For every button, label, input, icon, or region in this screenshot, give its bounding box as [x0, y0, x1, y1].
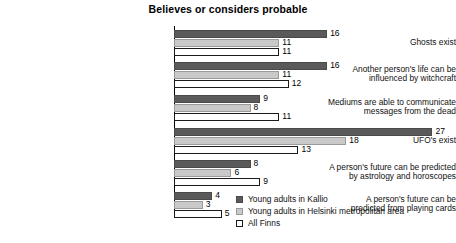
legend-label: Young adults in Kallio — [248, 195, 328, 204]
bar — [174, 71, 279, 79]
bar — [174, 80, 289, 88]
legend-item[interactable]: All Finns — [236, 218, 454, 229]
chart-legend: Young adults in KallioYoung adults in He… — [236, 194, 454, 230]
bar — [174, 39, 279, 47]
bar — [174, 201, 203, 209]
category-label-line: influenced by witchcraft — [284, 74, 456, 84]
bar — [174, 178, 260, 186]
category-label: Mediums are able to communicatemessages … — [284, 98, 456, 117]
legend-item[interactable]: Young adults in Kallio — [236, 194, 454, 205]
bar-value-label: 3 — [206, 199, 211, 210]
category-label-line: Ghosts exist — [284, 38, 456, 48]
bar — [174, 95, 260, 103]
legend-item[interactable]: Young adults in Helsinki metropolitan ar… — [236, 206, 454, 217]
legend-swatch-icon — [236, 220, 243, 227]
category-label: Another person's life can beinfluenced b… — [284, 65, 456, 84]
bar-value-label: 9 — [263, 176, 268, 187]
bar-value-label: 5 — [225, 208, 230, 219]
bar — [174, 169, 231, 177]
category-label: Ghosts exist — [284, 38, 456, 48]
chart-title: Believes or considers probable — [0, 3, 456, 15]
bar — [174, 210, 222, 218]
bar-value-label: 9 — [263, 93, 268, 104]
category-label-line: by astrology and horoscopes — [284, 172, 456, 182]
bar-value-label: 4 — [215, 190, 220, 201]
bar-row: 13 — [174, 146, 456, 154]
bar-value-label: 11 — [282, 46, 291, 57]
legend-swatch-icon — [236, 208, 243, 215]
bar — [174, 146, 298, 154]
legend-label: All Finns — [248, 219, 280, 228]
bar-value-label: 8 — [254, 158, 259, 169]
bar-row: 11 — [174, 48, 456, 56]
plot-area: 1611111611129811271813869435 — [174, 26, 456, 222]
bar — [174, 48, 279, 56]
bar-chart: Believes or considers probable 161111161… — [0, 0, 456, 243]
bar-value-label: 13 — [301, 144, 310, 155]
bar — [174, 104, 251, 112]
category-label: UFO's exist — [284, 136, 456, 146]
bar-value-label: 8 — [254, 102, 259, 113]
bar — [174, 113, 279, 121]
category-label-line: UFO's exist — [284, 136, 456, 146]
legend-swatch-icon — [236, 196, 243, 203]
category-label: A person's future can be predictedby ast… — [284, 163, 456, 182]
legend-label: Young adults in Helsinki metropolitan ar… — [248, 207, 404, 216]
category-label-line: messages from the dead — [284, 107, 456, 117]
bar-value-label: 6 — [234, 167, 239, 178]
